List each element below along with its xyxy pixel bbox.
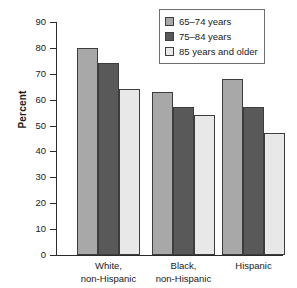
legend-item: 65–74 years xyxy=(165,14,258,29)
legend-item: 75–84 years xyxy=(165,29,258,44)
bar xyxy=(243,107,264,255)
legend-swatch-icon xyxy=(165,32,174,41)
y-axis-tick: 90 xyxy=(50,22,56,23)
legend-item-label: 85 years and older xyxy=(179,46,258,57)
bar xyxy=(264,133,285,255)
y-axis-tick-label: 80 xyxy=(35,41,46,54)
y-axis-tick: 80 xyxy=(50,48,56,49)
y-axis-tick-label: 0 xyxy=(41,248,46,261)
y-axis-title: Percent xyxy=(17,75,28,145)
bar xyxy=(98,63,119,255)
y-axis-tick: 40 xyxy=(50,151,56,152)
legend-item-label: 65–74 years xyxy=(179,16,231,27)
bar xyxy=(152,92,173,255)
legend-swatch-icon xyxy=(165,47,174,56)
y-axis-tick-label: 50 xyxy=(35,119,46,132)
y-axis-tick: 50 xyxy=(50,126,56,127)
bar xyxy=(173,107,194,255)
bar-chart-figure: Percent 0102030405060708090 White, non-H… xyxy=(0,0,296,288)
y-axis-tick: 30 xyxy=(50,177,56,178)
bar xyxy=(77,48,98,255)
bar xyxy=(119,89,140,255)
y-axis-tick: 70 xyxy=(50,74,56,75)
legend: 65–74 years75–84 years85 years and older xyxy=(159,9,265,64)
bar xyxy=(222,79,243,255)
legend-swatch-icon xyxy=(165,17,174,26)
y-axis-tick-label: 60 xyxy=(35,93,46,106)
y-axis-tick: 10 xyxy=(50,229,56,230)
y-axis-tick-label: 30 xyxy=(35,170,46,183)
legend-item: 85 years and older xyxy=(165,44,258,59)
y-axis-tick: 60 xyxy=(50,100,56,101)
y-axis-line xyxy=(56,22,57,255)
bar xyxy=(194,115,215,255)
y-axis-tick-label: 10 xyxy=(35,222,46,235)
y-axis-tick-label: 20 xyxy=(35,196,46,209)
x-axis-line xyxy=(56,255,283,256)
bar-group xyxy=(77,22,140,255)
y-axis-tick-label: 70 xyxy=(35,67,46,80)
y-axis-tick: 0 xyxy=(50,255,56,256)
y-axis-tick-label: 40 xyxy=(35,144,46,157)
y-axis-tick: 20 xyxy=(50,203,56,204)
legend-item-label: 75–84 years xyxy=(179,31,231,42)
y-axis-tick-label: 90 xyxy=(35,15,46,28)
x-axis-category-label: Hispanic xyxy=(199,260,297,273)
